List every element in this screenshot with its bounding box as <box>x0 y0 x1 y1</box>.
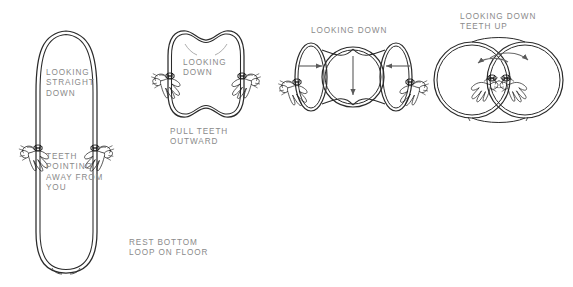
label-looking-down-teeth-up: LOOKING DOWN TEETH UP <box>460 12 536 33</box>
label-looking-down-panel3: LOOKING DOWN <box>311 26 387 36</box>
instruction-illustration <box>0 0 573 287</box>
label-looking-straight-down: LOOKING STRAIGHT DOWN <box>46 68 95 99</box>
label-teeth-pointing-away-from-you: TEETH POINTING AWAY FROM YOU <box>46 152 103 194</box>
knot-left-panel2 <box>166 73 174 79</box>
knot-left-panel1 <box>34 145 42 151</box>
panel-3-figure-eight-coil <box>278 43 429 111</box>
label-rest-bottom-loop-on-floor: REST BOTTOM LOOP ON FLOOR <box>129 238 208 259</box>
hand-right-panel4 <box>499 78 527 102</box>
label-pull-teeth-outward: PULL TEETH OUTWARD <box>170 127 228 148</box>
panel-4-stacked-circles <box>434 38 563 123</box>
label-looking-down-panel2: LOOKING DOWN <box>183 58 227 79</box>
knot-right-panel2 <box>238 73 246 79</box>
hand-right-panel2 <box>232 74 261 99</box>
knot-right-panel1 <box>91 145 99 151</box>
illustration-sheet: LOOKING STRAIGHT DOWN TEETH POINTING AWA… <box>0 0 573 287</box>
